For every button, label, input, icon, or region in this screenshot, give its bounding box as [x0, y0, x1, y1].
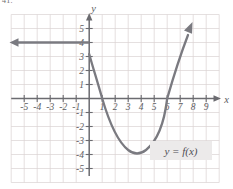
- x-tick-label: 4: [139, 102, 144, 112]
- y-axis-arrowhead: [86, 13, 92, 21]
- constant-ray-branch: [10, 38, 90, 46]
- axis-arrowheads: [86, 13, 221, 102]
- y-tick-label: 2: [79, 66, 84, 76]
- x-axis-label: x: [223, 94, 229, 105]
- y-tick-label: -4: [76, 150, 84, 160]
- x-tick-label: -4: [33, 102, 41, 112]
- x-tick-label: -3: [46, 102, 54, 112]
- x-tick-label: -5: [20, 102, 28, 112]
- x-tick-label: 9: [204, 102, 209, 112]
- y-axis-label: y: [90, 3, 96, 14]
- function-label-text: y = f(x): [163, 145, 197, 158]
- y-tick-label: -2: [76, 122, 84, 132]
- x-axis-tick-labels: -5 -4 -3 -2 -1 1 2 3 4 5 6 7 8 9: [20, 102, 209, 112]
- y-tick-label: -3: [76, 136, 84, 146]
- y-tick-label: 3: [78, 52, 84, 62]
- y-tick-label: 5: [79, 24, 84, 34]
- graph-figure: 41.: [0, 0, 233, 189]
- x-tick-label: -2: [59, 102, 67, 112]
- y-tick-label: 1: [79, 80, 84, 90]
- x-axis-arrowhead: [214, 95, 222, 101]
- x-tick-label: 2: [113, 102, 118, 112]
- y-tick-label: -1: [76, 108, 84, 118]
- function-label: y = f(x): [150, 141, 212, 160]
- x-tick-label: 3: [125, 102, 131, 112]
- parabola-curve: [89, 35, 188, 153]
- x-tick-label: 5: [152, 102, 157, 112]
- parabola-right-arrowhead: [184, 22, 193, 34]
- x-tick-label: 8: [191, 102, 196, 112]
- x-tick-label: 7: [178, 102, 184, 112]
- coordinate-plane: -5 -4 -3 -2 -1 1 2 3 4 5 6 7 8 9 5 4 3 2…: [0, 0, 233, 189]
- y-tick-label: -5: [76, 164, 84, 174]
